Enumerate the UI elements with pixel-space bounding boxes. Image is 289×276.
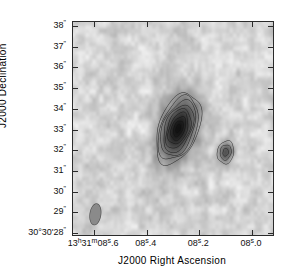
y-tick-mark bbox=[73, 192, 78, 193]
y-tick-mark bbox=[73, 233, 78, 234]
y-tick-mark bbox=[268, 171, 273, 172]
y-tick-mark bbox=[73, 26, 78, 27]
y-tick-mark bbox=[268, 47, 273, 48]
y-tick-mark bbox=[268, 130, 273, 131]
y-tick-mark bbox=[268, 233, 273, 234]
radio-map-figure: J2000 Declination J2000 Right Ascension … bbox=[0, 0, 289, 276]
y-tick-mark bbox=[73, 130, 78, 131]
y-tick-mark bbox=[73, 150, 78, 151]
y-tick-label: 37" bbox=[0, 39, 70, 50]
x-tick-label: 08s.4 bbox=[135, 237, 156, 248]
sky-image-canvas bbox=[73, 22, 273, 235]
y-tick-label: 34" bbox=[0, 101, 70, 112]
x-tick-mark bbox=[199, 22, 200, 27]
y-tick-mark bbox=[73, 212, 78, 213]
y-tick-mark bbox=[73, 47, 78, 48]
y-tick-mark bbox=[73, 67, 78, 68]
y-tick-label: 36" bbox=[0, 60, 70, 71]
y-tick-mark bbox=[268, 26, 273, 27]
y-tick-label: 29" bbox=[0, 205, 70, 216]
x-tick-mark bbox=[147, 230, 148, 235]
x-tick-mark bbox=[147, 22, 148, 27]
y-tick-mark bbox=[268, 109, 273, 110]
x-tick-label: 08s.2 bbox=[188, 237, 209, 248]
y-tick-mark bbox=[268, 192, 273, 193]
x-axis-title: J2000 Right Ascension bbox=[118, 255, 226, 266]
y-tick-label: 35" bbox=[0, 81, 70, 92]
x-tick-label: 13h31m08s.6 bbox=[68, 237, 119, 248]
y-tick-mark bbox=[268, 212, 273, 213]
y-tick-label: 30°30'28" bbox=[0, 225, 70, 236]
x-tick-mark bbox=[94, 230, 95, 235]
x-tick-mark bbox=[199, 230, 200, 235]
y-tick-label: 38" bbox=[0, 19, 70, 30]
y-tick-mark bbox=[268, 67, 273, 68]
x-tick-mark bbox=[252, 230, 253, 235]
x-tick-mark bbox=[252, 22, 253, 27]
y-tick-label: 31" bbox=[0, 163, 70, 174]
y-tick-mark bbox=[268, 150, 273, 151]
y-tick-label: 32" bbox=[0, 143, 70, 154]
y-tick-mark bbox=[73, 109, 78, 110]
y-tick-label: 30" bbox=[0, 184, 70, 195]
y-tick-mark bbox=[73, 171, 78, 172]
plot-frame bbox=[72, 21, 274, 236]
y-tick-label: 33" bbox=[0, 122, 70, 133]
y-tick-mark bbox=[268, 88, 273, 89]
x-tick-mark bbox=[94, 22, 95, 27]
y-tick-mark bbox=[73, 88, 78, 89]
x-tick-label: 08s.0 bbox=[240, 237, 261, 248]
